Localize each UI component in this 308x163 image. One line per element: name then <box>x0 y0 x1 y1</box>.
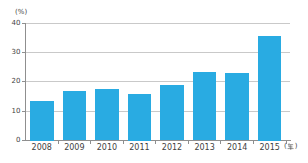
bar <box>160 85 184 140</box>
bar <box>95 89 119 141</box>
x-axis-unit-label: () <box>284 142 297 151</box>
year-kanji-glyph <box>287 143 294 150</box>
x-tick-label: 2009 <box>58 143 90 153</box>
gridline <box>26 23 291 24</box>
gridline <box>26 52 291 53</box>
bar <box>258 36 282 140</box>
y-tick-label: 20 <box>0 77 21 86</box>
x-tick-label: 2015 <box>254 143 286 153</box>
bar <box>225 73 249 141</box>
bar <box>30 101 54 141</box>
x-tick-label: 2011 <box>123 143 155 153</box>
y-tick-label: 0 <box>0 136 21 145</box>
x-tick-label: 2014 <box>221 143 253 153</box>
bar <box>193 72 217 140</box>
gridline <box>26 81 291 82</box>
x-tick-label: 2008 <box>26 143 58 153</box>
y-tick-label: 10 <box>0 107 21 116</box>
x-tick-label: 2012 <box>156 143 188 153</box>
bar-chart: (%) 010203040200820092010201120122013201… <box>0 0 308 163</box>
x-tick-label: 2010 <box>91 143 123 153</box>
plot-area: 0102030402008200920102011201220132014201… <box>0 0 308 163</box>
bar <box>128 94 152 141</box>
bar <box>63 91 87 140</box>
x-tick-label: 2013 <box>189 143 221 153</box>
y-axis-line <box>25 23 26 141</box>
y-tick-label: 30 <box>0 48 21 57</box>
y-tick-label: 40 <box>0 19 21 28</box>
